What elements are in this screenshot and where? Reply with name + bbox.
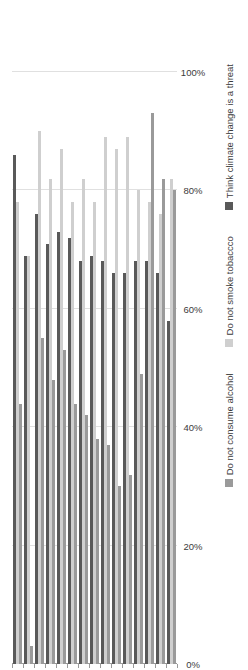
legend-item[interactable]: Do not smoke tobaccco — [224, 236, 235, 347]
category-tick — [45, 664, 46, 668]
category-tick — [111, 664, 112, 668]
category-tick — [122, 664, 123, 668]
plot-area: SpainFranceMexicoJapanBrazilItalySwedenG… — [0, 0, 248, 670]
bar-group — [111, 72, 122, 664]
legend-swatch-icon — [225, 479, 233, 487]
bar — [129, 475, 132, 664]
category-tick — [100, 664, 101, 668]
legend-swatch-icon — [225, 339, 233, 347]
legend-label: Think climate change is a threat — [224, 64, 235, 198]
category-tick — [155, 664, 156, 668]
bar — [41, 338, 44, 664]
bar-group — [122, 72, 133, 664]
bar — [173, 190, 176, 664]
category-tick — [78, 664, 79, 668]
category-tick — [166, 664, 167, 668]
bar-group — [133, 72, 144, 664]
value-axis-label: 60% — [183, 303, 202, 314]
category-tick — [67, 664, 68, 668]
bar — [107, 445, 110, 664]
bar-group — [78, 72, 89, 664]
bar-group — [45, 72, 56, 664]
bar-group — [23, 72, 34, 664]
bar — [140, 374, 143, 664]
bar — [52, 380, 55, 664]
category-tick — [56, 664, 57, 668]
legend-item[interactable]: Think climate change is a threat — [224, 64, 235, 210]
bar-group — [56, 72, 67, 664]
bar — [27, 256, 30, 664]
category-tick — [12, 664, 13, 668]
category-tick — [144, 664, 145, 668]
bar — [85, 415, 88, 664]
value-axis-label: 80% — [183, 185, 202, 196]
chart-figure: SpainFranceMexicoJapanBrazilItalySwedenG… — [0, 0, 248, 670]
value-axis-label: 0% — [186, 659, 200, 670]
legend-label: Do not consume alcohol — [224, 373, 235, 475]
category-tick — [89, 664, 90, 668]
bar — [74, 404, 77, 664]
legend-swatch-icon — [225, 202, 233, 210]
category-tick — [177, 664, 178, 668]
bar — [96, 439, 99, 664]
bar-group — [89, 72, 100, 664]
plot-box — [12, 72, 177, 664]
bar-group — [144, 72, 155, 664]
bar — [19, 404, 22, 664]
bar — [118, 486, 121, 664]
bar — [63, 350, 66, 664]
bar-group — [34, 72, 45, 664]
legend-label: Do not smoke tobaccco — [224, 236, 235, 335]
bar-group — [155, 72, 166, 664]
chart-legend: Think climate change is a threatDo not s… — [218, 64, 240, 664]
value-axis-label: 40% — [183, 422, 202, 433]
bar-group — [100, 72, 111, 664]
bar — [30, 646, 33, 664]
category-tick — [34, 664, 35, 668]
value-axis-label: 20% — [183, 540, 202, 551]
bar — [162, 179, 165, 664]
value-axis-label: 100% — [181, 67, 205, 78]
legend-item[interactable]: Do not consume alcohol — [224, 373, 235, 487]
category-tick — [133, 664, 134, 668]
bar-group — [67, 72, 78, 664]
bar-group — [12, 72, 23, 664]
category-tick — [23, 664, 24, 668]
bar-group — [166, 72, 177, 664]
bar — [151, 113, 154, 664]
